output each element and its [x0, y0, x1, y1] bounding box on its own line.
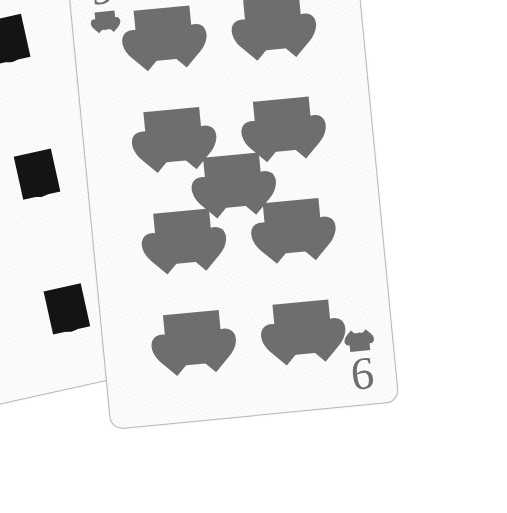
- rank-label: 9: [343, 351, 381, 396]
- corner-index-bottom-right: 9: [342, 331, 382, 396]
- heart-icon: [95, 11, 117, 31]
- pip-heart: [153, 208, 214, 265]
- pip-heart: [143, 107, 204, 164]
- card-nine-of-hearts[interactable]: 9 9: [65, 0, 399, 430]
- pip-heart: [272, 299, 333, 356]
- rank-label: 9: [83, 0, 121, 12]
- pip-heart: [243, 0, 304, 52]
- pip-spade: [14, 149, 61, 200]
- pip-spade: [44, 283, 91, 334]
- card-face: 9 9: [67, 0, 399, 429]
- pip-heart: [263, 198, 324, 255]
- pip-heart: [203, 152, 264, 209]
- playing-cards-photo: lding 6 6 3: [0, 0, 507, 513]
- pip-heart: [134, 5, 195, 62]
- pip-heart: [253, 96, 314, 153]
- corner-index-top-left: 9: [83, 0, 123, 31]
- pip-spade: [0, 14, 30, 65]
- heart-icon: [349, 331, 371, 351]
- pip-heart: [163, 310, 224, 367]
